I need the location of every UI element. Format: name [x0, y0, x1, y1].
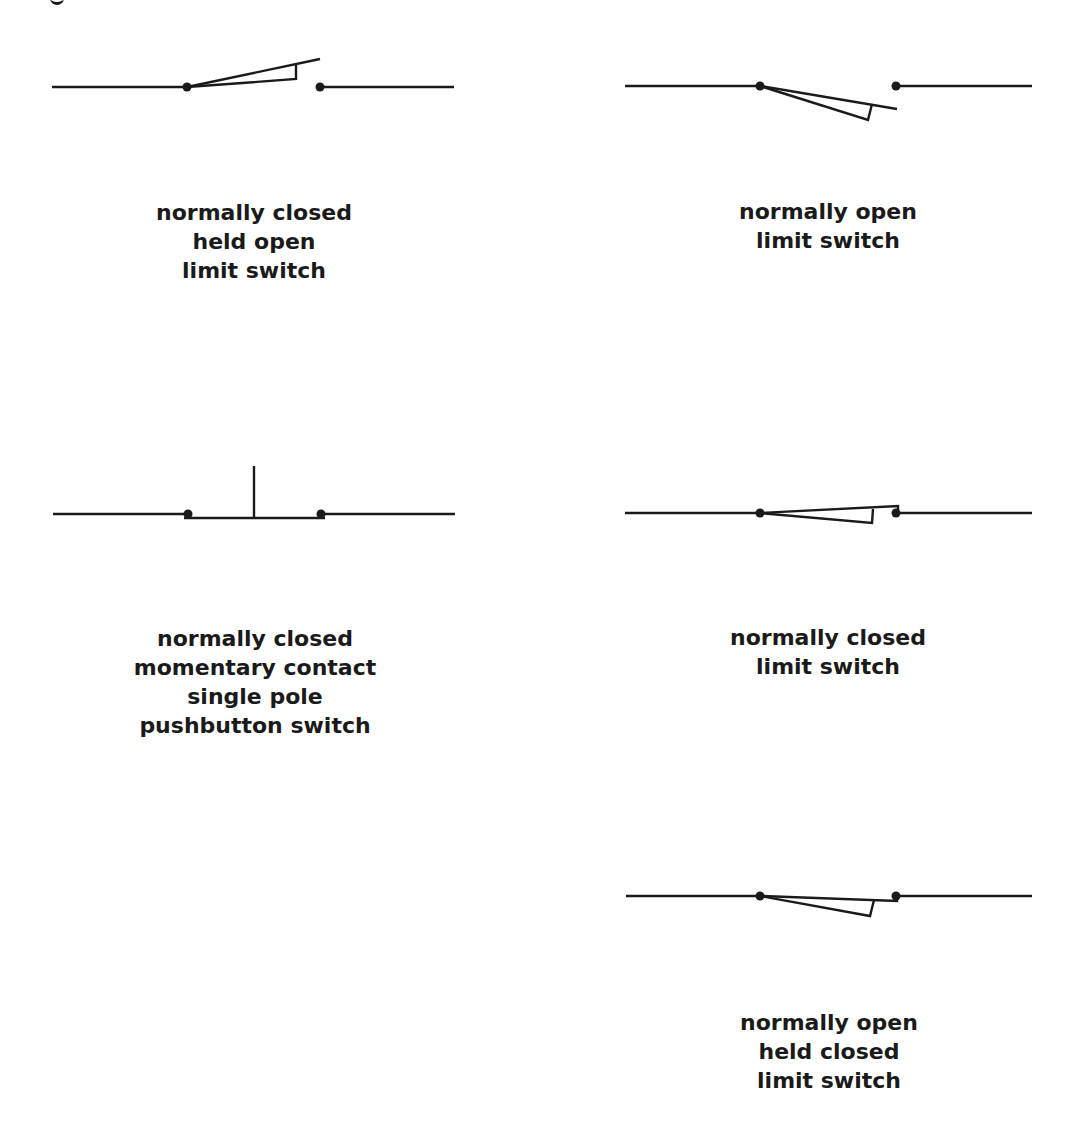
label-line: normally open	[739, 197, 917, 226]
label-line: limit switch	[739, 226, 917, 255]
label-line: single pole	[134, 682, 377, 711]
nc-momentary-pushbutton-graphic	[53, 466, 455, 519]
label-line: limit switch	[730, 652, 926, 681]
nc-held-open-limit-switch-graphic	[52, 59, 454, 92]
label-line: normally closed	[134, 624, 377, 653]
label-line: limit switch	[740, 1066, 918, 1095]
label-line: normally closed	[156, 198, 352, 227]
label-no-limit-switch: normally open limit switch	[739, 197, 917, 255]
label-line: normally open	[740, 1008, 918, 1037]
nc-limit-switch-graphic	[625, 506, 1032, 523]
label-line: held open	[156, 227, 352, 256]
label-line: held closed	[740, 1037, 918, 1066]
nc-held-open-limit-switch-symbol	[0, 0, 1076, 1128]
label-nc-limit-switch: normally closed limit switch	[730, 623, 926, 681]
no-held-closed-limit-switch-graphic	[626, 892, 1032, 917]
label-line: pushbutton switch	[134, 711, 377, 740]
label-line: momentary contact	[134, 653, 377, 682]
no-limit-switch-graphic	[625, 82, 1032, 121]
label-nc-momentary-pushbutton: normally closed momentary contact single…	[134, 624, 377, 740]
label-no-held-closed-limit-switch: normally open held closed limit switch	[740, 1008, 918, 1095]
label-line: normally closed	[730, 623, 926, 652]
label-nc-held-open-limit-switch: normally closed held open limit switch	[156, 198, 352, 285]
label-line: limit switch	[156, 256, 352, 285]
